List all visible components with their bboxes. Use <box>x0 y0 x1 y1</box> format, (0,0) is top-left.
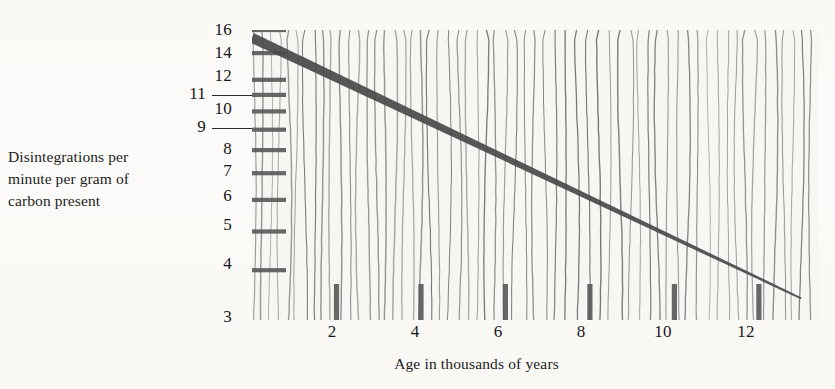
y-tick-leader-11 <box>212 95 252 96</box>
y-tick-label-4: 4 <box>186 254 232 274</box>
y-tick-label-7: 7 <box>186 161 232 181</box>
y-tick-label-16: 16 <box>186 20 232 40</box>
x-tick-label-10: 10 <box>643 322 683 342</box>
y-tick-label-8: 8 <box>186 139 232 159</box>
y-axis-label-line-2: minute per gram of <box>8 168 208 190</box>
y-axis-label-line-1: Disintegrations per <box>8 146 208 168</box>
plot-svg <box>252 30 818 320</box>
chart-page: Disintegrations per minute per gram of c… <box>0 0 835 389</box>
y-tick-label-5: 5 <box>186 215 232 235</box>
x-axis-label-text: Age in thousands of years <box>394 355 559 372</box>
x-axis-label: Age in thousands of years <box>0 355 835 373</box>
x-tick-label-2: 2 <box>312 322 352 342</box>
y-tick-label-6: 6 <box>186 186 232 206</box>
y-axis-label: Disintegrations per minute per gram of c… <box>8 146 208 212</box>
y-tick-label-9: 9 <box>160 117 206 137</box>
x-tick-label-4: 4 <box>395 322 435 342</box>
plot-area <box>252 30 818 320</box>
x-tick-label-6: 6 <box>478 322 518 342</box>
y-axis-label-line-3: carbon present <box>8 190 208 212</box>
y-tick-label-3: 3 <box>186 307 232 327</box>
x-tick-label-12: 12 <box>726 322 766 342</box>
x-tick-label-8: 8 <box>561 322 601 342</box>
y-tick-label-12: 12 <box>186 66 232 86</box>
y-tick-leader-9 <box>212 128 252 129</box>
y-tick-label-14: 14 <box>186 43 232 63</box>
y-tick-label-10: 10 <box>186 99 232 119</box>
